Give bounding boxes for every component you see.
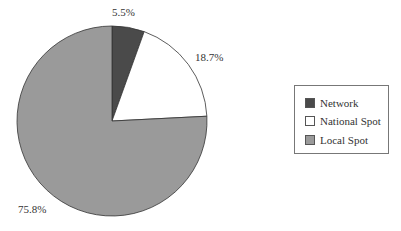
legend-swatch-network: [305, 98, 315, 108]
legend-item-network: Network: [305, 97, 359, 109]
legend-swatch-local-spot: [305, 135, 315, 145]
legend-swatch-national-spot: [305, 116, 315, 126]
legend-label: Local Spot: [320, 134, 368, 146]
slice-label-network: 5.5%: [112, 6, 135, 18]
legend: Network National Spot Local Spot: [294, 85, 389, 154]
slice-label-national-spot: 18.7%: [195, 51, 223, 63]
legend-label: National Spot: [320, 115, 381, 127]
legend-item-national-spot: National Spot: [305, 115, 381, 127]
slice-label-local-spot: 75.8%: [18, 203, 46, 215]
legend-label: Network: [320, 97, 359, 109]
legend-item-local-spot: Local Spot: [305, 134, 368, 146]
